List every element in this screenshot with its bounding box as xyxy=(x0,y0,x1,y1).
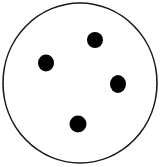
circle-with-dots-diagram xyxy=(0,0,161,167)
dot-bottom xyxy=(70,116,87,133)
dot-right xyxy=(110,75,126,93)
dot-top xyxy=(87,32,103,48)
diagram-canvas: 4 xyxy=(0,0,161,167)
dots-group xyxy=(38,32,126,133)
outer-circle xyxy=(3,3,157,163)
dot-left xyxy=(38,55,54,72)
